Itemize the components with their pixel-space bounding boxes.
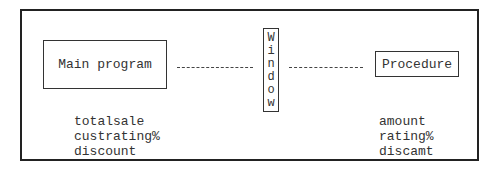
- main-program-box: Main program: [43, 40, 167, 89]
- window-box: W i n d o w: [263, 28, 279, 112]
- variable-name: discount: [74, 144, 160, 159]
- variable-name: discamt: [379, 144, 434, 159]
- dashed-connector-right: [289, 67, 363, 68]
- main-program-variables: totalsalecustrating%discount: [74, 114, 160, 159]
- window-letter: w: [267, 97, 274, 110]
- procedure-variables: amountrating%discamt: [379, 114, 434, 159]
- variable-name: rating%: [379, 129, 434, 144]
- procedure-label: Procedure: [382, 57, 452, 72]
- variable-name: amount: [379, 114, 434, 129]
- procedure-box: Procedure: [375, 51, 459, 77]
- dashed-connector-left: [177, 67, 253, 68]
- variable-name: totalsale: [74, 114, 160, 129]
- variable-name: custrating%: [74, 129, 160, 144]
- main-program-label: Main program: [58, 57, 152, 72]
